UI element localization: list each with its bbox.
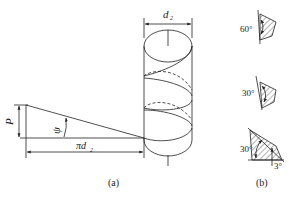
circumference-label: πd	[76, 140, 87, 151]
pitch-label: P	[3, 118, 15, 126]
profile-30-angle: 30°	[242, 88, 255, 98]
profile-30-3-angle: 30°	[240, 144, 253, 154]
caption-b: (b)	[256, 177, 268, 189]
pitch-cylinder	[144, 18, 192, 166]
diameter-label: d	[163, 8, 169, 20]
profile-30	[256, 76, 276, 110]
profile-60-angle: 60°	[240, 24, 253, 34]
lead-angle-label: ψ	[50, 127, 62, 134]
profile-60	[258, 10, 276, 44]
profile-3-angle: 3°	[274, 161, 283, 171]
circumference-subscript: 2	[90, 147, 93, 153]
thread-geometry-diagram: P ψ πd 2 d 2 (a) 60°	[0, 0, 289, 204]
diameter-subscript: 2	[170, 15, 173, 21]
caption-a: (a)	[108, 177, 119, 189]
